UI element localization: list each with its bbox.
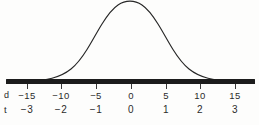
axis-label-t: −3 xyxy=(10,103,44,116)
axis-label-d: −10 xyxy=(44,89,78,102)
axis-label-t: 1 xyxy=(149,103,183,116)
axis-row-t: t −3 −2 −1 0 1 2 3 xyxy=(0,103,259,116)
axis-label-d: 15 xyxy=(218,89,252,102)
axis-label-d: 5 xyxy=(149,89,183,102)
axis-label-d: −5 xyxy=(79,89,113,102)
axis-label-d: 10 xyxy=(183,89,217,102)
axis-label-t: −1 xyxy=(79,103,113,116)
axis-label-t: −2 xyxy=(44,103,78,116)
normal-distribution-figure: d −15 −10 −5 0 5 10 15 t −3 −2 −1 0 1 2 … xyxy=(0,0,259,125)
axis-label-t: 2 xyxy=(183,103,217,116)
axis-label-t: 3 xyxy=(218,103,252,116)
bell-curve-path xyxy=(24,1,236,81)
axis-label-t: 0 xyxy=(114,103,148,116)
axis-label-d: −15 xyxy=(10,89,44,102)
axis-row-d: d −15 −10 −5 0 5 10 15 xyxy=(0,89,259,102)
axis-label-d: 0 xyxy=(114,89,148,102)
